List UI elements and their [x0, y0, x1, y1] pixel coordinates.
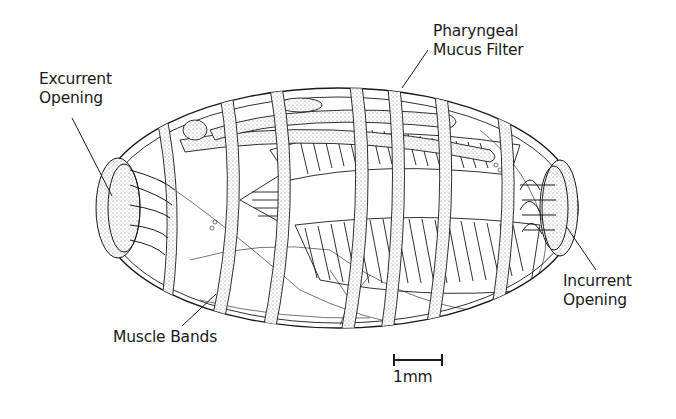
- pharyngeal-label-line2: Mucus Filter: [433, 41, 524, 60]
- pharyngeal-leader: [402, 50, 428, 88]
- organism-illustration: [0, 0, 676, 419]
- muscle-bands-label-text: Muscle Bands: [113, 328, 217, 347]
- excurrent-opening-label: Excurrent Opening: [39, 70, 112, 108]
- incurrent-opening-label: Incurrent Opening: [563, 272, 632, 310]
- scale-bar: [394, 354, 442, 366]
- incurrent-label-line1: Incurrent: [563, 272, 632, 291]
- scale-bar-label: 1mm: [393, 368, 432, 387]
- pharyngeal-label-line1: Pharyngeal: [433, 22, 524, 41]
- excurrent-leader: [72, 118, 112, 196]
- incurrent-label-line2: Opening: [563, 291, 632, 310]
- pharyngeal-filter-label: Pharyngeal Mucus Filter: [433, 22, 524, 60]
- incurrent-opening: [520, 160, 578, 256]
- muscle-bands: [155, 85, 514, 341]
- leader-lines: [72, 50, 596, 326]
- excurrent-opening: [96, 158, 175, 258]
- muscle-bands-label: Muscle Bands: [113, 328, 217, 347]
- excurrent-label-line1: Excurrent: [39, 70, 112, 89]
- excurrent-label-line2: Opening: [39, 89, 112, 108]
